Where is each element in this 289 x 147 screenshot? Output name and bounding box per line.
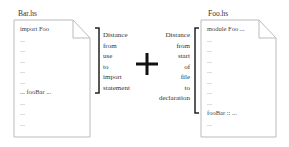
- right-annotation: Distance from start of file to declarati…: [159, 30, 190, 104]
- code-line: ...: [20, 66, 25, 76]
- right-bracket-icon: [193, 27, 199, 114]
- code-line-usage: ... fooBar ...: [20, 87, 51, 97]
- code-line: ...: [20, 77, 25, 87]
- annotation-line: to: [159, 83, 190, 94]
- code-line: ...: [20, 45, 25, 55]
- code-line: ...: [20, 119, 25, 129]
- left-bracket-icon: [95, 27, 101, 94]
- bar-file-title: Bar.hs: [18, 9, 37, 18]
- code-line: ...: [20, 56, 25, 66]
- annotation-line: of: [159, 62, 190, 73]
- annotation-line: Distance: [103, 30, 130, 41]
- code-line-module: module Foo ...: [207, 24, 245, 34]
- annotation-line: file: [159, 72, 190, 83]
- code-line: ...: [20, 35, 25, 45]
- plus-icon: [135, 52, 159, 76]
- annotation-line: statement: [103, 83, 130, 94]
- annotation-line: from: [159, 41, 190, 52]
- code-line: ...: [207, 77, 212, 87]
- code-line: ...: [207, 87, 212, 97]
- code-line: ...: [207, 98, 212, 108]
- code-line: ...: [20, 98, 25, 108]
- code-line: ...: [207, 35, 212, 45]
- annotation-line: to: [103, 62, 130, 73]
- code-line: ...: [207, 56, 212, 66]
- code-line: ...: [20, 108, 25, 118]
- annotation-line: import: [103, 72, 130, 83]
- annotation-line: start: [159, 51, 190, 62]
- left-annotation: Distance from use to import statement: [103, 30, 130, 93]
- code-line-declaration: fooBar :: ...: [207, 108, 237, 118]
- code-line: ...: [207, 45, 212, 55]
- annotation-line: use: [103, 51, 130, 62]
- annotation-line: from: [103, 41, 130, 52]
- code-line: import Foo: [20, 24, 49, 34]
- annotation-line: Distance: [159, 30, 190, 41]
- annotation-line: declaration: [159, 93, 190, 104]
- code-line: ...: [207, 66, 212, 76]
- foo-file-title: Foo.hs: [208, 9, 228, 18]
- code-line: ...: [207, 119, 212, 129]
